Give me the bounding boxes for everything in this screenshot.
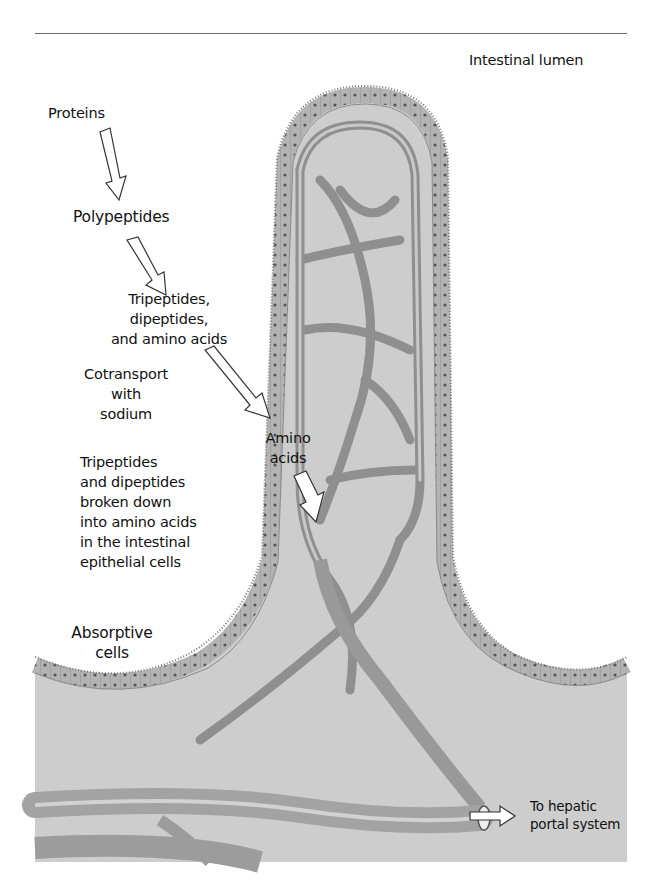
label-polypeptides: Polypeptides bbox=[73, 207, 169, 227]
label-to-hepatic-portal-system: To hepatic portal system bbox=[530, 797, 620, 833]
arrow-to-amino-acids-entry bbox=[205, 346, 270, 418]
arrow-proteins-to-polypeptides bbox=[100, 128, 126, 200]
villus-illustration bbox=[0, 0, 663, 884]
label-proteins: Proteins bbox=[48, 103, 105, 123]
arrow-polypeptides-to-tripeptides bbox=[127, 237, 166, 295]
label-tripeptides-dipeptides-amino-acids: Tripeptides, dipeptides, and amino acids bbox=[104, 289, 234, 349]
label-breakdown-in-epithelial-cells: Tripeptides and dipeptides broken down i… bbox=[80, 452, 197, 572]
label-intestinal-lumen: Intestinal lumen bbox=[469, 50, 583, 70]
label-cotransport-with-sodium: Cotransport with sodium bbox=[78, 364, 174, 424]
label-absorptive-cells: Absorptive cells bbox=[62, 623, 162, 663]
label-amino-acids: Amino acids bbox=[258, 428, 318, 468]
